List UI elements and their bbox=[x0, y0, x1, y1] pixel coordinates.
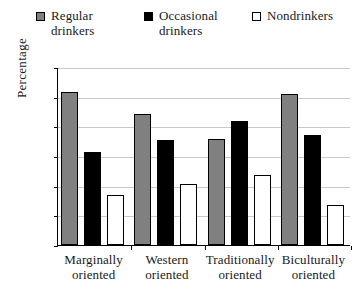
x-tick-mark bbox=[205, 246, 206, 250]
bar-nondrinkers bbox=[107, 195, 124, 245]
bar-occasional-drinkers bbox=[157, 140, 174, 245]
bar-group bbox=[61, 68, 124, 245]
x-tick-mark bbox=[278, 246, 279, 250]
legend-swatch-filled-gray-square-icon bbox=[36, 12, 45, 21]
plot-area: 0102030405060 bbox=[57, 68, 350, 246]
bar-regular-drinkers bbox=[134, 114, 151, 245]
legend-item-occasional-drinkers: Occasional drinkers bbox=[144, 8, 218, 38]
legend-label-regular-drinkers: Regular drinkers bbox=[51, 8, 94, 38]
legend-label-nondrinkers: Nondrinkers bbox=[267, 8, 333, 23]
bar-series-container bbox=[58, 68, 350, 245]
bar-group bbox=[208, 68, 271, 245]
bar-group bbox=[134, 68, 197, 245]
chart-legend: Regular drinkers Occasional drinkers Non… bbox=[0, 6, 360, 52]
bar-regular-drinkers bbox=[61, 92, 78, 245]
x-tick-mark bbox=[131, 246, 132, 250]
bar-occasional-drinkers bbox=[84, 152, 101, 245]
legend-label-occasional-drinkers: Occasional drinkers bbox=[159, 8, 218, 38]
y-axis-title: Percentage bbox=[14, 8, 30, 128]
bar-nondrinkers bbox=[180, 184, 197, 245]
bar-regular-drinkers bbox=[281, 94, 298, 245]
legend-swatch-open-square-icon bbox=[252, 12, 261, 21]
bar-group bbox=[281, 68, 344, 245]
bar-nondrinkers bbox=[327, 205, 344, 245]
x-category-label: Biculturally oriented bbox=[269, 252, 358, 282]
bar-chart-figure: Regular drinkers Occasional drinkers Non… bbox=[0, 0, 360, 296]
bar-nondrinkers bbox=[254, 175, 271, 245]
legend-swatch-filled-black-square-icon bbox=[144, 12, 153, 21]
legend-item-regular-drinkers: Regular drinkers bbox=[36, 8, 94, 38]
legend-item-nondrinkers: Nondrinkers bbox=[252, 8, 333, 23]
bar-occasional-drinkers bbox=[304, 135, 321, 245]
x-tick-mark bbox=[351, 246, 352, 250]
bar-regular-drinkers bbox=[208, 139, 225, 245]
y-tick-mark bbox=[54, 246, 58, 247]
bar-occasional-drinkers bbox=[231, 121, 248, 245]
